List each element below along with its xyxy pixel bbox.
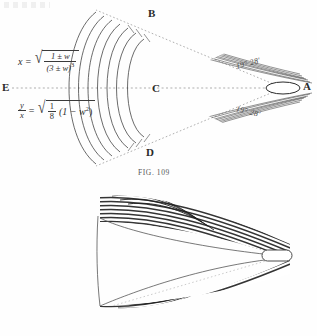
figure-109-caption: FIG. 109 <box>138 168 170 177</box>
formula-x-radical: √ 1 ± w (3 ± w)3 <box>34 50 79 73</box>
formula-x-denominator-exponent: 3 <box>71 61 74 68</box>
formula-yx-lhs: y x <box>18 101 26 120</box>
formula-x-equals: = <box>25 56 31 67</box>
figure-109: E B C D A 19° 28' 19° 28' x = √ 1 ± w (3… <box>0 0 317 188</box>
projectile-rounded-rect <box>262 250 292 261</box>
formula-x: x = √ 1 ± w (3 ± w)3 <box>18 50 79 73</box>
figure-110-drawing <box>0 188 317 336</box>
figure-110: FIG. 110. <box>0 188 317 336</box>
formula-yx-fraction-numerator: 1 <box>48 102 56 111</box>
point-label-b: B <box>148 8 155 19</box>
formula-x-denominator-base: (3 ± w) <box>46 63 71 73</box>
formula-x-fraction: 1 ± w (3 ± w)3 <box>44 52 76 73</box>
formula-x-radicand: 1 ± w (3 ± w)3 <box>42 50 79 73</box>
radical-sign-icon: √ <box>35 50 42 73</box>
formula-yx-factor-base: (1 − w <box>59 107 86 118</box>
formula-yx-lhs-numerator: y <box>18 101 26 110</box>
point-label-d: D <box>146 147 154 158</box>
formula-x-denominator: (3 ± w)3 <box>44 61 76 73</box>
formula-yx-lhs-denominator: x <box>18 110 26 120</box>
formula-yx-factor: (1 − w2) <box>59 105 92 117</box>
point-label-a: A <box>303 81 311 92</box>
point-label-e: E <box>2 82 9 93</box>
formula-yx-fraction-denominator: 8 <box>48 111 56 121</box>
formula-yx-radical: √ 1 8 (1 − w2) <box>37 100 95 121</box>
formula-yx-factor-close: ) <box>89 107 92 118</box>
scanned-page: E B C D A 19° 28' 19° 28' x = √ 1 ± w (3… <box>0 0 317 336</box>
formula-yx-equals: = <box>29 105 35 116</box>
formula-x-lhs: x <box>18 56 22 67</box>
figure-109-drawing <box>0 0 317 188</box>
formula-yx-fraction: 1 8 <box>48 102 56 121</box>
formula-y-over-x: y x = √ 1 8 (1 − w2) <box>18 100 95 121</box>
formula-x-numerator: 1 ± w <box>49 52 72 61</box>
formula-yx-radicand: 1 8 (1 − w2) <box>46 100 96 121</box>
upper-wave-band <box>95 188 300 278</box>
radical-sign-icon: √ <box>38 100 45 121</box>
point-label-c: C <box>152 83 160 94</box>
projectile-ellipse <box>266 82 300 94</box>
